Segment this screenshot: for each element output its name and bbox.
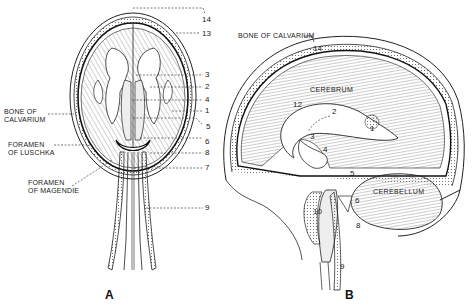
- label-line: FORAMEN: [8, 141, 55, 149]
- callout-b-10: 10: [313, 208, 322, 216]
- callout-b-6: 6: [355, 197, 359, 205]
- callout-b-9: 9: [340, 263, 344, 271]
- callout-8: 8: [205, 149, 209, 157]
- callout-6: 6: [205, 138, 209, 146]
- callout-b-1: 1: [370, 125, 374, 133]
- label-line: FORAMEN: [28, 179, 79, 187]
- callout-b-4: 4: [323, 146, 327, 154]
- label-bone-of-calvarium-a: BONE OF CALVARIUM: [4, 108, 46, 124]
- callout-9: 9: [205, 204, 209, 212]
- label-line: BONE OF: [4, 108, 46, 116]
- callout-13: 13: [202, 30, 211, 38]
- callout-5: 5: [206, 123, 210, 131]
- callout-b-12: 12: [293, 101, 302, 109]
- panel-b-drawing: [224, 36, 465, 290]
- callout-b-2: 2: [332, 108, 336, 116]
- callout-b-8: 8: [356, 222, 360, 230]
- callout-4: 4: [205, 96, 209, 104]
- label-foramen-of-luschka: FORAMEN OF LUSCHKA: [8, 141, 55, 157]
- callout-14: 14: [202, 16, 211, 24]
- callout-2: 2: [205, 83, 209, 91]
- panel-a-drawing: [70, 13, 196, 270]
- label-line: CALVARIUM: [4, 116, 46, 124]
- callout-3: 3: [205, 71, 209, 79]
- callout-7: 7: [205, 164, 209, 172]
- label-line: OF LUSCHKA: [8, 149, 55, 157]
- callout-1: 1: [205, 107, 209, 115]
- label-foramen-of-magendie: FORAMEN OF MAGENDIE: [28, 179, 79, 195]
- label-bone-of-calvarium-b: BONE OF CALVARIUM: [238, 32, 315, 40]
- panel-letter-a: A: [105, 288, 114, 302]
- panel-letter-b: B: [345, 288, 354, 302]
- callout-b-5: 5: [350, 170, 354, 178]
- callout-b-14: 14: [313, 45, 322, 53]
- label-cerebellum: CEREBELLUM: [373, 188, 424, 195]
- label-line: OF MAGENDIE: [28, 187, 79, 195]
- callout-b-3: 3: [310, 133, 314, 141]
- figure-artwork: [0, 0, 474, 306]
- label-cerebrum: CEREBRUM: [310, 86, 353, 93]
